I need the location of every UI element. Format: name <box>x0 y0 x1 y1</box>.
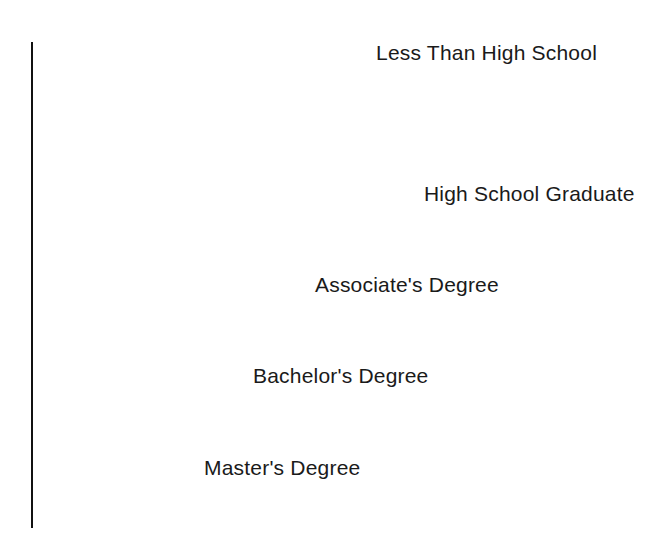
bar-value-label: 5.2% <box>174 364 223 388</box>
bar-category-label: Associate's Degree <box>315 273 499 297</box>
bar-group: 5.2% Bachelor's Degree <box>33 341 235 411</box>
bar-category-label: Master's Degree <box>204 456 360 480</box>
bar-chart: 14.6% Less Than High School 9.7% High Sc… <box>0 0 653 545</box>
bar-group: 9.7% High School Graduate <box>33 159 406 228</box>
bar-category-label: Bachelor's Degree <box>253 364 429 388</box>
bar-group: 3.9% Master's Degree <box>33 432 186 503</box>
bar-value-label: 6.8% <box>236 273 285 297</box>
bar-category-label: High School Graduate <box>424 182 635 206</box>
bar-value-label: 3.9% <box>125 456 174 480</box>
bar-group: 6.8% Associate's Degree <box>33 250 297 320</box>
bar-value-label: 9.7% <box>345 182 394 206</box>
bar-category-label: Less Than High School <box>376 41 597 65</box>
bar-group: 14.6% Less Than High School <box>33 70 597 138</box>
bar-value-label: 14.6% <box>524 92 585 116</box>
